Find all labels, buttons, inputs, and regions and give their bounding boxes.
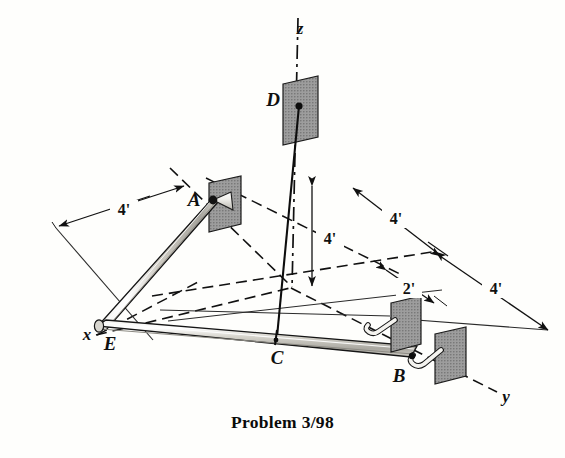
dim-z-label: 4'	[324, 230, 336, 247]
y-axis-label: y	[500, 387, 510, 406]
point-C-marker	[274, 338, 279, 343]
z-axis-label: z	[296, 19, 304, 38]
figure-caption: Problem 3/98	[231, 412, 334, 432]
point-B-marker	[409, 353, 415, 359]
point-D-marker	[295, 102, 302, 109]
dim-y-upper-tick	[428, 242, 448, 256]
dim-2-ext	[434, 296, 447, 306]
dimension-x-4: 4'	[52, 186, 184, 228]
point-A-label: A	[187, 189, 201, 210]
strut-AE-highlight	[101, 202, 210, 329]
point-C-label: C	[271, 347, 284, 368]
dim-y-upper-label: 4'	[390, 210, 402, 227]
dim-x-label: 4'	[118, 201, 130, 218]
dim-x-ext-left	[52, 222, 56, 228]
plate-B-rear-face	[391, 296, 421, 352]
point-B-label: B	[392, 365, 406, 386]
plate-B-front-face	[435, 327, 466, 384]
figure-container: z x y D A	[0, 0, 565, 458]
point-E-label: E	[103, 333, 117, 354]
caption-wrapper: Problem 3/98	[0, 412, 565, 433]
plate-D-face	[283, 76, 318, 145]
joint-E	[94, 320, 103, 332]
ball-A	[209, 196, 218, 205]
plane-cross-line	[160, 310, 390, 316]
dim-2-label: 2'	[403, 280, 415, 297]
dim-y-lower-label: 4'	[490, 280, 502, 297]
joint-E-cap	[94, 320, 103, 332]
plate-D	[283, 76, 318, 145]
x-axis-label: x	[82, 325, 92, 344]
mechanics-diagram: z x y D A	[0, 0, 565, 458]
dimension-y-upper-4: 4'	[353, 188, 448, 256]
dimension-y-lower-4: 4'	[440, 256, 548, 330]
dimension-z-4: 4'	[312, 186, 344, 286]
point-D-label: D	[265, 89, 280, 110]
